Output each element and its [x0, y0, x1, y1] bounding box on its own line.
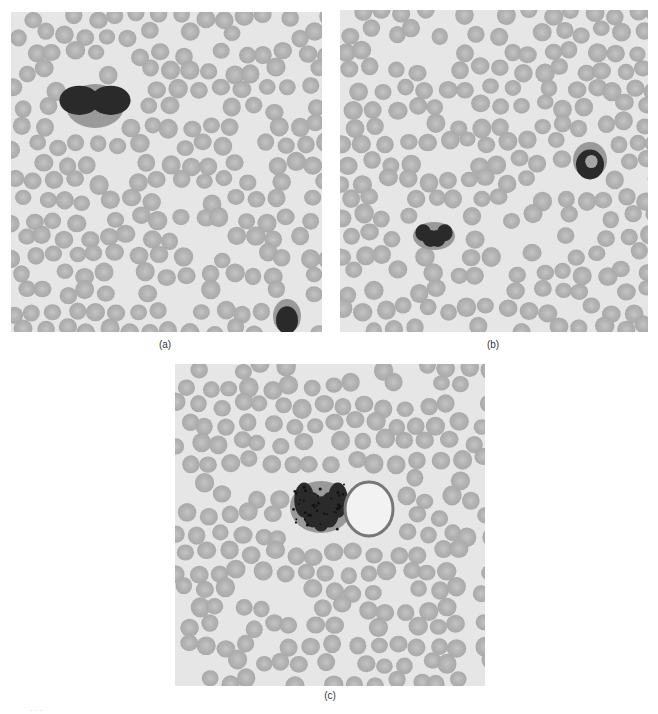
panel-label-c: (c) — [310, 690, 350, 701]
micrograph-panel-c — [175, 364, 485, 686]
panel-label-a: (a) — [145, 339, 185, 350]
blood-smear-image-c — [175, 364, 485, 686]
micrograph-panel-a — [11, 12, 322, 332]
blood-smear-image-a — [11, 12, 322, 332]
panel-label-b: (b) — [473, 339, 513, 350]
micrograph-panel-b — [340, 10, 648, 332]
blood-smear-image-b — [340, 10, 648, 332]
figure-caption-fragment: · · · — [30, 708, 630, 714]
